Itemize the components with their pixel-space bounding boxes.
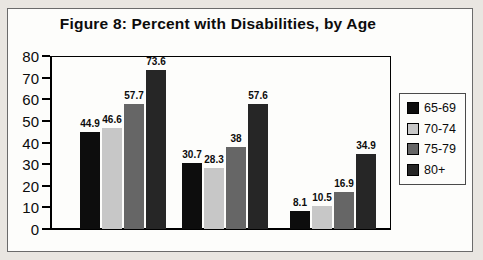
legend-label: 80+: [424, 164, 445, 177]
bar-80+-group-1: [146, 70, 166, 229]
y-axis-label: 70: [7, 71, 39, 86]
legend-swatch-icon: [407, 123, 419, 135]
legend-label: 75-79: [424, 143, 456, 156]
y-axis-tick: [42, 55, 50, 57]
y-axis-label: 20: [7, 179, 39, 194]
bar-70-74-group-3: [312, 206, 332, 229]
y-axis-label: 10: [7, 200, 39, 215]
bar-70-74-group-2: [204, 168, 224, 229]
y-axis-tick: [42, 120, 50, 122]
figure-8-chart-image: Figure 8: Percent with Disabilities, by …: [0, 0, 483, 260]
bar-65-69-group-2: [182, 163, 202, 229]
y-axis-label: 0: [7, 222, 39, 237]
y-axis-tick: [42, 142, 50, 144]
y-axis-tick: [42, 206, 50, 208]
y-axis-label: 50: [7, 114, 39, 129]
y-axis-tick: [42, 77, 50, 79]
y-axis-tick: [42, 163, 50, 165]
y-axis-label: 30: [7, 157, 39, 172]
y-axis-label: 80: [7, 49, 39, 64]
legend-label: 70-74: [424, 123, 456, 136]
legend: 65-6970-7475-7980+: [399, 93, 466, 185]
bar-80+-group-2: [248, 104, 268, 229]
bar-75-79-group-1: [124, 104, 144, 229]
y-axis-tick: [42, 185, 50, 187]
y-axis-tick: [42, 98, 50, 100]
y-axis-label: 40: [7, 136, 39, 151]
bar-75-79-group-3: [334, 192, 354, 229]
y-axis-label: 60: [7, 92, 39, 107]
bar-value-label: 34.9: [346, 141, 386, 151]
bar-value-label: 57.6: [238, 91, 278, 101]
legend-label: 65-69: [424, 102, 456, 115]
bar-80+-group-3: [356, 154, 376, 229]
legend-swatch-icon: [407, 102, 419, 114]
bar-65-69-group-1: [80, 132, 100, 229]
y-axis-tick: [42, 228, 50, 230]
legend-item: 75-79: [407, 143, 463, 156]
bar-70-74-group-1: [102, 128, 122, 229]
legend-swatch-icon: [407, 164, 419, 176]
bar-65-69-group-3: [290, 211, 310, 229]
bar-value-label: 73.6: [136, 57, 176, 67]
bar-75-79-group-2: [226, 147, 246, 229]
legend-swatch-icon: [407, 143, 419, 155]
legend-item: 70-74: [407, 123, 463, 136]
legend-item: 80+: [407, 164, 463, 177]
legend-item: 65-69: [407, 102, 463, 115]
